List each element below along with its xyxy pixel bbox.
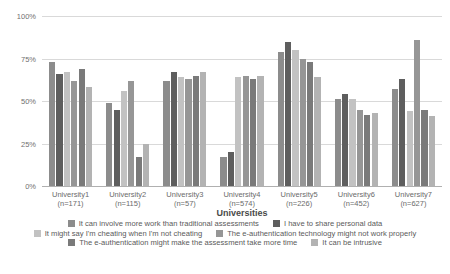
bar <box>171 72 177 186</box>
legend-item[interactable]: It can involve more work than traditiona… <box>68 220 259 228</box>
x-axis-category-label: University7(n=627) <box>385 190 442 209</box>
legend-label: The e-authentication might make the asse… <box>79 239 297 247</box>
bar <box>86 87 92 186</box>
bar-group <box>213 16 270 186</box>
legend-item[interactable]: The e-authentication technology might no… <box>216 230 416 238</box>
legend-row: It might say I'm cheating when I'm not c… <box>0 230 450 238</box>
y-axis-tick-label: 50% <box>0 98 36 106</box>
legend-row: The e-authentication might make the asse… <box>0 239 450 247</box>
x-axis-category-label: University2(n=115) <box>99 190 156 209</box>
bar <box>121 91 127 186</box>
bar <box>300 59 306 187</box>
bar-group <box>99 16 156 186</box>
bar <box>200 72 206 186</box>
legend-label: It can involve more work than traditiona… <box>79 220 259 228</box>
bar <box>79 69 85 186</box>
bar <box>163 81 169 186</box>
legend-item[interactable]: It can be intrusive <box>311 239 382 247</box>
legend-item[interactable]: It might say I'm cheating when I'm not c… <box>34 230 202 238</box>
bar <box>335 99 341 186</box>
category-name: University1 <box>52 190 89 199</box>
bar <box>250 79 256 186</box>
bar <box>64 72 70 186</box>
bar <box>71 81 77 186</box>
bar <box>235 77 241 186</box>
category-name: University3 <box>166 190 203 199</box>
bar <box>228 152 234 186</box>
bar-group <box>42 16 99 186</box>
bar-groups <box>42 16 442 186</box>
bar <box>292 50 298 186</box>
bar <box>257 76 263 187</box>
y-axis-tick-label: 100% <box>0 13 36 21</box>
legend-swatch-icon <box>68 220 75 227</box>
bar <box>392 89 398 186</box>
legend-label: I have to share personal data <box>284 220 382 228</box>
bar <box>56 74 62 186</box>
legend-swatch-icon <box>216 230 223 237</box>
x-axis-line <box>42 186 442 187</box>
bar <box>429 116 435 186</box>
bar-group <box>385 16 442 186</box>
bar-group <box>328 16 385 186</box>
x-axis-category-label: University3(n=57) <box>156 190 213 209</box>
bar <box>143 144 149 187</box>
y-axis-tick-label: 75% <box>0 56 36 64</box>
bar <box>114 110 120 187</box>
x-axis-title: Universities <box>42 208 442 218</box>
category-name: University2 <box>109 190 146 199</box>
bar <box>314 77 320 186</box>
bar <box>342 94 348 186</box>
x-axis-category-label: University6(n=452) <box>328 190 385 209</box>
legend-label: The e-authentication technology might no… <box>227 230 416 238</box>
legend-label: It might say I'm cheating when I'm not c… <box>45 230 202 238</box>
chart-legend: It can involve more work than traditiona… <box>0 220 450 249</box>
bar <box>49 62 55 186</box>
bar <box>372 113 378 186</box>
x-axis-category-label: University4(n=574) <box>213 190 270 209</box>
x-axis-labels: University1(n=171)University2(n=115)Univ… <box>42 190 442 209</box>
bar-group <box>271 16 328 186</box>
y-axis-tick-label: 0% <box>0 183 36 191</box>
bar <box>178 77 184 186</box>
bar <box>399 79 405 186</box>
bar-group <box>156 16 213 186</box>
x-axis-category-label: University5(n=226) <box>271 190 328 209</box>
bar <box>243 76 249 187</box>
category-name: University4 <box>223 190 260 199</box>
category-name: University6 <box>338 190 375 199</box>
bar <box>285 42 291 187</box>
bar <box>278 52 284 186</box>
bar <box>421 110 427 187</box>
legend-item[interactable]: I have to share personal data <box>273 220 382 228</box>
bar <box>185 79 191 186</box>
category-name: University7 <box>395 190 432 199</box>
x-axis-category-label: University1(n=171) <box>42 190 99 209</box>
legend-swatch-icon <box>34 230 41 237</box>
bar <box>220 157 226 186</box>
category-name: University5 <box>281 190 318 199</box>
bar <box>128 81 134 186</box>
legend-swatch-icon <box>68 239 75 246</box>
legend-swatch-icon <box>311 239 318 246</box>
y-axis-tick-label: 25% <box>0 141 36 149</box>
legend-item[interactable]: The e-authentication might make the asse… <box>68 239 297 247</box>
chart-figure: 0%25%50%75%100% University1(n=171)Univer… <box>0 0 450 274</box>
bar <box>307 62 313 186</box>
legend-label: It can be intrusive <box>322 239 382 247</box>
bar <box>193 76 199 187</box>
bar <box>414 40 420 186</box>
bar <box>136 157 142 186</box>
legend-row: It can involve more work than traditiona… <box>0 220 450 228</box>
legend-swatch-icon <box>273 220 280 227</box>
bar <box>407 111 413 186</box>
bar <box>357 110 363 187</box>
bar <box>106 103 112 186</box>
bar <box>349 99 355 186</box>
bar <box>364 115 370 186</box>
